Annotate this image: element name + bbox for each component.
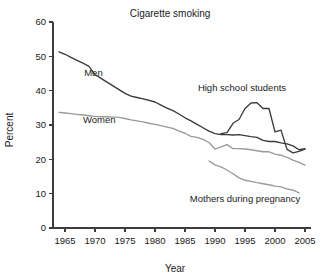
y-tick-label: 20 [35,154,46,165]
chart-svg: Cigarette smoking 0102030405060 19651970… [0,0,321,280]
series-label: Women [83,114,116,125]
x-tick-label: 1970 [84,235,105,246]
x-axis-title: Year [165,263,186,274]
x-axis-title-group: Year [165,263,186,274]
cigarette-smoking-chart: Cigarette smoking 0102030405060 19651970… [0,0,321,280]
series-label: High school students [198,82,286,93]
y-axis-title: Percent [4,113,15,148]
y-tick-label: 40 [35,85,46,96]
series-line [209,161,299,193]
x-tick-label: 1965 [54,235,75,246]
chart-title-group: Cigarette smoking [130,8,211,19]
x-tick-label: 2000 [264,235,285,246]
y-tick-label: 30 [35,119,46,130]
x-tick-label: 1975 [114,235,135,246]
y-tick-label: 10 [35,188,46,199]
x-tick-label: 1985 [174,235,195,246]
y-tick-label: 60 [35,16,46,27]
x-tick-label: 1990 [204,235,225,246]
x-tick-label: 2005 [294,235,315,246]
y-axis: 0102030405060 [35,16,53,233]
series-label: Mothers during pregnancy [190,193,301,204]
x-axis: 196519701975198019851990199520002005 [53,228,316,246]
y-tick-label: 50 [35,51,46,62]
y-axis-title-group: Percent [4,113,15,148]
series-label: Men [84,67,102,78]
x-tick-label: 1995 [234,235,255,246]
y-tick-label: 0 [41,222,46,233]
x-tick-label: 1980 [144,235,165,246]
chart-title: Cigarette smoking [130,8,211,19]
